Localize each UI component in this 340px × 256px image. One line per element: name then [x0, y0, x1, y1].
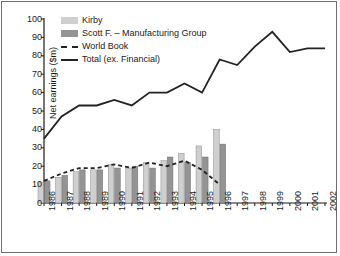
legend-label: Scott F. – Manufacturing Group — [82, 29, 207, 38]
x-tick-2002: 2002 — [329, 191, 338, 211]
legend-dashed-line-icon — [61, 46, 78, 48]
legend-swatch-scott — [61, 30, 78, 37]
legend-solid-line-icon — [61, 59, 78, 61]
x-tick-1991: 1991 — [136, 191, 145, 211]
x-tick-1994: 1994 — [189, 191, 198, 211]
legend-item-3: Total (ex. Financial) — [61, 53, 207, 66]
x-tick-1992: 1992 — [153, 191, 162, 211]
net-earnings-chart: Net earnings ($m) 0102030405060708090100… — [0, 0, 340, 256]
legend-swatch-kirby — [61, 17, 78, 24]
x-tick-1997: 1997 — [241, 191, 250, 211]
legend-label: Kirby — [82, 16, 103, 25]
x-tick-1988: 1988 — [83, 191, 92, 211]
legend-item-1: Scott F. – Manufacturing Group — [61, 27, 207, 40]
legend-item-2: World Book — [61, 40, 207, 53]
x-tick-1990: 1990 — [118, 191, 127, 211]
chart-legend: KirbyScott F. – Manufacturing GroupWorld… — [61, 14, 207, 66]
x-tick-1987: 1987 — [66, 191, 75, 211]
x-tick-1986: 1986 — [48, 191, 57, 211]
x-tick-1989: 1989 — [101, 191, 110, 211]
x-tick-1996: 1996 — [224, 191, 233, 211]
x-tick-1995: 1995 — [206, 191, 215, 211]
legend-label: Total (ex. Financial) — [82, 55, 160, 64]
x-tick-2001: 2001 — [311, 191, 320, 211]
x-tick-1993: 1993 — [171, 191, 180, 211]
x-tick-1999: 1999 — [276, 191, 285, 211]
x-tick-2000: 2000 — [294, 191, 303, 211]
legend-item-0: Kirby — [61, 14, 207, 27]
legend-label: World Book — [82, 42, 128, 51]
x-tick-1998: 1998 — [259, 191, 268, 211]
